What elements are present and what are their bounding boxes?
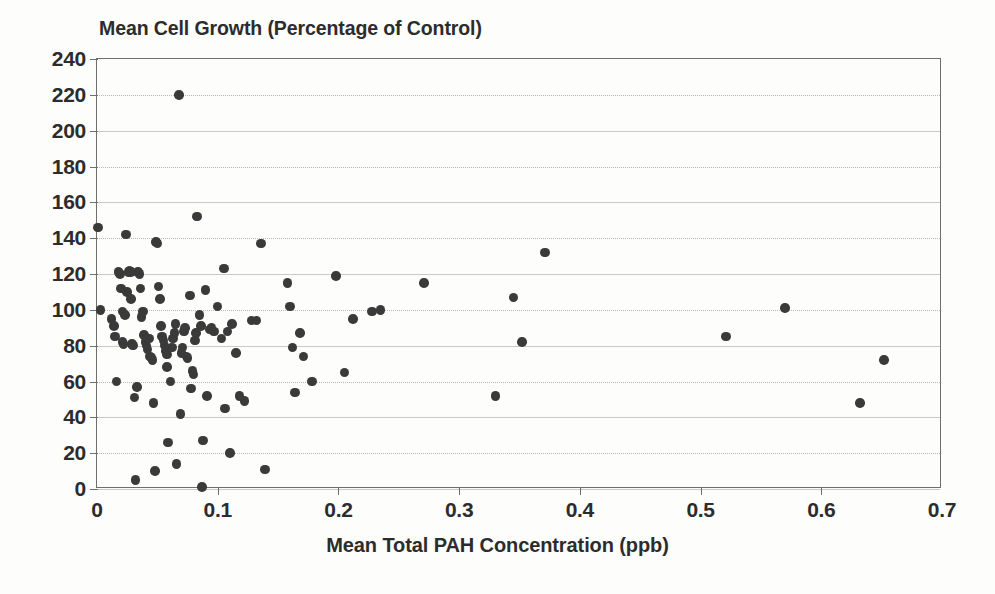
y-tick-mark	[90, 131, 98, 132]
scatter-point	[93, 223, 103, 233]
x-tick-label: 0.5	[686, 498, 714, 522]
scatter-point	[509, 293, 519, 303]
gridline	[97, 274, 940, 275]
scatter-point	[419, 278, 429, 288]
scatter-point	[155, 294, 165, 304]
y-tick-label: 140	[52, 226, 86, 250]
scatter-point	[148, 355, 158, 365]
y-tick-label: 40	[63, 405, 86, 429]
y-tick-label: 160	[52, 190, 86, 214]
scatter-point	[299, 352, 309, 362]
scatter-point	[540, 248, 550, 258]
x-tick-label: 0.2	[324, 498, 352, 522]
gridline	[97, 382, 940, 383]
scatter-point	[109, 321, 119, 331]
scatter-point	[150, 466, 160, 476]
scatter-point	[517, 337, 527, 347]
scatter-point	[178, 343, 188, 353]
x-tick-mark	[701, 487, 702, 495]
x-tick-label: 0.1	[204, 498, 232, 522]
scatter-point	[198, 436, 208, 446]
scatter-point	[180, 323, 190, 333]
scatter-point	[153, 239, 163, 249]
x-axis-label: Mean Total PAH Concentration (ppb)	[0, 534, 995, 557]
y-tick-mark	[90, 346, 98, 347]
gridline	[97, 95, 940, 96]
scatter-point	[135, 269, 145, 279]
scatter-point	[144, 334, 154, 344]
gridline	[97, 238, 940, 239]
gridline	[97, 167, 940, 168]
y-tick-label: 100	[52, 298, 86, 322]
scatter-point	[166, 377, 176, 387]
scatter-point	[149, 398, 159, 408]
scatter-point	[348, 314, 358, 324]
scatter-point	[197, 482, 207, 492]
scatter-point	[130, 393, 140, 403]
scatter-point	[260, 465, 270, 475]
scatter-point	[112, 377, 122, 387]
y-tick-mark	[90, 59, 98, 60]
scatter-point	[192, 212, 202, 222]
gridline	[97, 310, 940, 311]
scatter-point	[721, 332, 731, 342]
plot-area: 020406080100120140160180200220240 00.10.…	[96, 58, 941, 488]
scatter-point	[186, 384, 196, 394]
scatter-point	[167, 343, 177, 353]
scatter-point	[121, 230, 131, 240]
scatter-point	[252, 316, 262, 326]
scatter-point	[171, 319, 181, 329]
scatter-point	[220, 404, 230, 414]
y-tick-label: 220	[52, 83, 86, 107]
y-tick-mark	[90, 167, 98, 168]
x-tick-mark	[459, 487, 460, 495]
y-tick-mark	[90, 382, 98, 383]
y-tick-label: 240	[52, 47, 86, 71]
y-tick-label: 0	[75, 477, 86, 501]
scatter-point	[189, 370, 199, 380]
gridline	[97, 489, 940, 490]
y-tick-label: 200	[52, 119, 86, 143]
scatter-point	[132, 382, 142, 392]
y-tick-mark	[90, 95, 98, 96]
scatter-point	[376, 305, 386, 315]
scatter-point	[225, 448, 235, 458]
y-tick-label: 60	[63, 370, 86, 394]
scatter-point	[120, 310, 130, 320]
scatter-point	[136, 284, 146, 294]
x-tick-label: 0.3	[445, 498, 473, 522]
scatter-point	[295, 328, 305, 338]
scatter-point	[174, 90, 184, 100]
scatter-point	[219, 264, 229, 274]
chart-figure: Mean Cell Growth (Percentage of Control)…	[0, 0, 995, 594]
scatter-point	[240, 396, 250, 406]
scatter-point	[138, 307, 148, 317]
scatter-point	[307, 377, 317, 387]
scatter-point	[288, 343, 298, 353]
scatter-point	[283, 278, 293, 288]
scatter-point	[154, 282, 164, 292]
scatter-point	[162, 362, 172, 372]
scatter-point	[185, 291, 195, 301]
scatter-point	[128, 341, 138, 351]
scatter-point	[202, 391, 212, 401]
scatter-point	[285, 302, 295, 312]
scatter-point	[231, 348, 241, 358]
y-tick-mark	[90, 489, 98, 490]
x-tick-label: 0	[91, 498, 102, 522]
scatter-point	[183, 353, 193, 363]
y-tick-label: 180	[52, 155, 86, 179]
gridline	[97, 453, 940, 454]
y-tick-mark	[90, 453, 98, 454]
x-tick-label: 0.7	[928, 498, 956, 522]
y-tick-mark	[90, 274, 98, 275]
scatter-point	[227, 319, 237, 329]
chart-title: Mean Cell Growth (Percentage of Control)	[99, 17, 482, 40]
x-tick-label: 0.4	[566, 498, 594, 522]
y-tick-mark	[90, 202, 98, 203]
scatter-point	[256, 239, 266, 249]
scatter-point	[201, 285, 211, 295]
scatter-point	[131, 475, 141, 485]
scatter-point	[290, 388, 300, 398]
scatter-point	[340, 368, 350, 378]
